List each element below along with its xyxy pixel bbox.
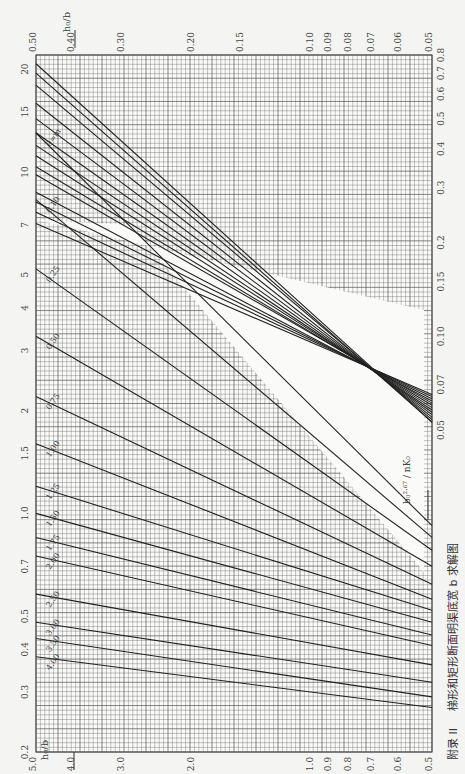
- svg-text:7: 7: [20, 222, 30, 228]
- svg-text:4.0: 4.0: [66, 757, 76, 772]
- svg-text:0.2: 0.2: [436, 235, 446, 249]
- svg-text:1.0: 1.0: [20, 506, 30, 521]
- svg-text:20: 20: [20, 63, 30, 75]
- svg-text:2: 2: [20, 408, 30, 414]
- svg-text:0.06: 0.06: [393, 32, 403, 52]
- svg-text:5: 5: [20, 272, 30, 278]
- svg-text:0.05: 0.05: [424, 32, 434, 52]
- svg-text:b₀²·⁶⁷ / nK₀: b₀²·⁶⁷ / nK₀: [402, 456, 412, 504]
- nomograph-chart: 0.500.400.300.200.150.100.090.080.070.06…: [0, 0, 465, 774]
- svg-text:h₀/b: h₀/b: [39, 740, 50, 760]
- svg-text:0.7: 0.7: [436, 66, 446, 81]
- svg-text:0.8: 0.8: [436, 48, 446, 63]
- svg-text:0.2: 0.2: [20, 745, 30, 759]
- svg-text:0.8: 0.8: [343, 757, 353, 772]
- svg-text:0.6: 0.6: [393, 757, 403, 772]
- svg-text:0.20: 0.20: [186, 32, 196, 52]
- svg-text:0.50: 0.50: [28, 32, 38, 52]
- svg-text:0.6: 0.6: [436, 86, 446, 101]
- svg-text:0.10: 0.10: [305, 32, 315, 52]
- svg-text:0.10: 0.10: [436, 326, 446, 346]
- svg-text:0.07: 0.07: [366, 32, 376, 52]
- svg-text:0.4: 0.4: [436, 141, 446, 156]
- svg-text:0.5: 0.5: [20, 609, 30, 624]
- svg-text:0.4: 0.4: [20, 642, 30, 657]
- svg-text:10: 10: [20, 166, 30, 178]
- svg-text:0.05: 0.05: [436, 420, 446, 440]
- caption: 附录 II 梯形和矩形断面明渠底宽 b 求解图: [444, 560, 460, 760]
- svg-text:0.15: 0.15: [436, 271, 446, 291]
- svg-text:0.15: 0.15: [235, 32, 245, 52]
- svg-text:0.30: 0.30: [116, 32, 126, 52]
- svg-text:3.0: 3.0: [116, 757, 126, 772]
- svg-text:15: 15: [20, 106, 30, 118]
- svg-text:0.5: 0.5: [424, 757, 434, 772]
- svg-text:4: 4: [20, 305, 30, 311]
- svg-text:0.9: 0.9: [323, 757, 333, 772]
- svg-text:1.0: 1.0: [305, 757, 315, 772]
- caption-title: 梯形和矩形断面明渠底宽 b 求解图: [447, 543, 460, 711]
- svg-text:0.3: 0.3: [436, 180, 446, 195]
- svg-text:2.0: 2.0: [186, 757, 196, 772]
- svg-text:0.5: 0.5: [436, 111, 446, 126]
- svg-text:3: 3: [20, 347, 30, 353]
- svg-text:0.7: 0.7: [366, 757, 376, 772]
- svg-text:0.3: 0.3: [20, 684, 30, 699]
- caption-appendix: 附录 II: [447, 728, 460, 760]
- svg-text:1.5: 1.5: [20, 446, 30, 461]
- nomograph-page: 0.500.400.300.200.150.100.090.080.070.06…: [0, 0, 465, 774]
- svg-text:0.09: 0.09: [323, 32, 333, 52]
- svg-text:h₀/b: h₀/b: [61, 12, 72, 32]
- svg-text:0.08: 0.08: [343, 32, 353, 52]
- svg-text:0.7: 0.7: [20, 559, 30, 574]
- svg-text:0.07: 0.07: [436, 374, 446, 394]
